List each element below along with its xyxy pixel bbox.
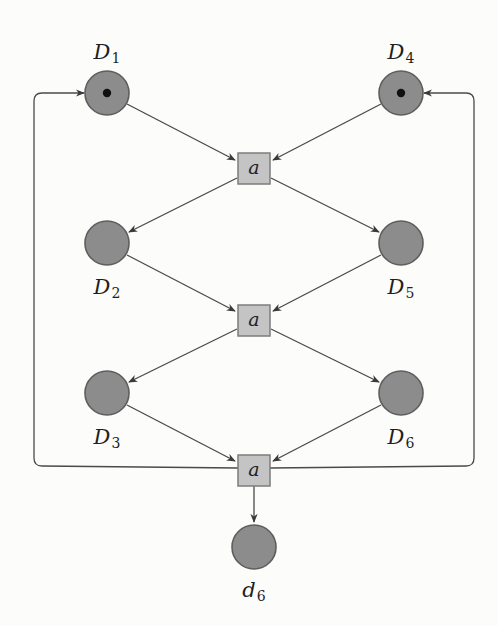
transition-label-t1: a xyxy=(248,156,259,178)
arc-D2-t2 xyxy=(127,255,235,311)
arc-D6-t3 xyxy=(273,405,381,461)
label-D4: D4 xyxy=(388,40,415,66)
token-icon xyxy=(103,89,111,97)
place-d6 xyxy=(232,525,276,569)
label-D5: D5 xyxy=(388,275,415,301)
place-D5 xyxy=(379,221,423,265)
arc-t3-D4-loop xyxy=(270,93,474,468)
arc-t1-D5 xyxy=(271,178,379,232)
arc-D4-t1 xyxy=(273,104,381,160)
label-D3: D3 xyxy=(94,425,121,451)
label-d6: d6 xyxy=(242,578,265,604)
arc-t2-D3 xyxy=(129,329,237,382)
arc-t2-D6 xyxy=(271,329,379,382)
label-D2: D2 xyxy=(94,275,121,301)
place-D1 xyxy=(85,71,129,115)
transition-label-t2: a xyxy=(248,308,259,330)
petri-net-diagram: D1 D4 D2 D5 D3 D6 d6 a a a xyxy=(0,0,498,626)
place-D4 xyxy=(379,71,423,115)
arc-D1-t1 xyxy=(127,104,235,160)
arc-t1-D2 xyxy=(129,178,237,232)
token-icon xyxy=(397,89,405,97)
label-D6: D6 xyxy=(388,425,415,451)
label-D1: D1 xyxy=(94,40,121,66)
arc-D5-t2 xyxy=(273,255,381,311)
transition-label-t3: a xyxy=(248,458,259,480)
place-D3 xyxy=(85,371,129,415)
place-D2 xyxy=(85,221,129,265)
arc-t3-D1-loop xyxy=(34,93,238,468)
arc-D3-t3 xyxy=(127,405,235,461)
place-D6 xyxy=(379,371,423,415)
